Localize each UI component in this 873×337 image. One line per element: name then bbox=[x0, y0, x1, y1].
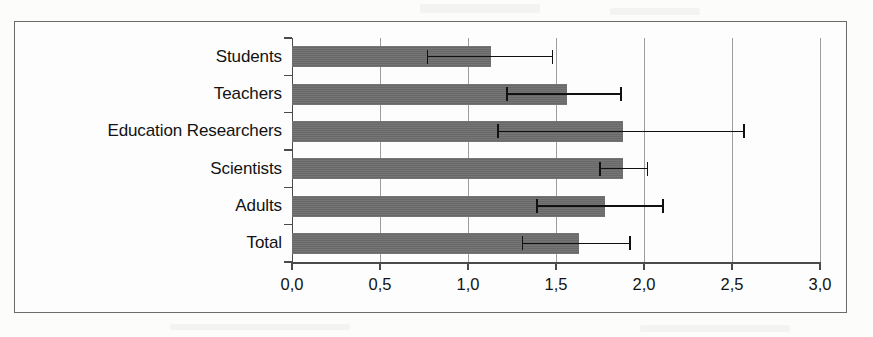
y-axis-line bbox=[292, 38, 294, 264]
error-bar-line bbox=[537, 205, 664, 207]
y-tick-mark bbox=[284, 187, 292, 189]
y-tick-mark bbox=[284, 261, 292, 263]
error-bar-line bbox=[498, 131, 744, 133]
gridline bbox=[556, 38, 557, 262]
error-bar-cap-high bbox=[743, 124, 745, 138]
error-bar-cap-high bbox=[620, 87, 622, 101]
error-bar-cap-low bbox=[497, 124, 499, 138]
y-tick-mark bbox=[284, 75, 292, 77]
gridline bbox=[820, 38, 821, 262]
x-tick-mark bbox=[731, 262, 733, 270]
error-bar-line bbox=[428, 56, 553, 58]
y-tick-mark bbox=[284, 37, 292, 39]
y-tick-mark bbox=[284, 149, 292, 151]
category-label: Adults bbox=[40, 197, 282, 214]
error-bar-line bbox=[523, 243, 630, 245]
error-bar-cap-low bbox=[506, 87, 508, 101]
error-bar-cap-high bbox=[647, 162, 649, 176]
category-label: Education Researchers bbox=[40, 122, 282, 139]
x-tick-mark bbox=[467, 262, 469, 270]
y-tick-mark bbox=[284, 112, 292, 114]
error-bar-cap-high bbox=[552, 50, 554, 64]
error-bar-line bbox=[507, 93, 621, 95]
error-bar-cap-high bbox=[662, 199, 664, 213]
error-bar-cap-low bbox=[427, 50, 429, 64]
error-bar-cap-low bbox=[536, 199, 538, 213]
x-tick-mark bbox=[819, 262, 821, 270]
gridline bbox=[380, 38, 381, 262]
category-label: Teachers bbox=[40, 85, 282, 102]
x-tick-label: 1,0 bbox=[438, 276, 498, 292]
category-label: Scientists bbox=[40, 160, 282, 177]
category-label: Students bbox=[40, 48, 282, 65]
x-tick-label: 1,5 bbox=[526, 276, 586, 292]
x-tick-mark bbox=[379, 262, 381, 270]
error-bar-cap-high bbox=[629, 236, 631, 250]
y-tick-mark bbox=[284, 224, 292, 226]
x-tick-label: 2,0 bbox=[614, 276, 674, 292]
x-tick-mark bbox=[643, 262, 645, 270]
bar bbox=[292, 158, 623, 179]
category-label: Total bbox=[40, 234, 282, 251]
error-bar-cap-low bbox=[599, 162, 601, 176]
gridline bbox=[732, 38, 733, 262]
x-tick-label: 3,0 bbox=[790, 276, 850, 292]
x-tick-mark bbox=[555, 262, 557, 270]
gridline bbox=[644, 38, 645, 262]
x-tick-label: 2,5 bbox=[702, 276, 762, 292]
gridline bbox=[468, 38, 469, 262]
x-tick-mark bbox=[291, 262, 293, 270]
error-bar-line bbox=[600, 168, 648, 170]
bar-chart-plot-area: 0,00,51,01,52,02,53,0StudentsTeachersEdu… bbox=[0, 0, 873, 337]
x-tick-label: 0,0 bbox=[262, 276, 322, 292]
error-bar-cap-low bbox=[522, 236, 524, 250]
x-tick-label: 0,5 bbox=[350, 276, 410, 292]
